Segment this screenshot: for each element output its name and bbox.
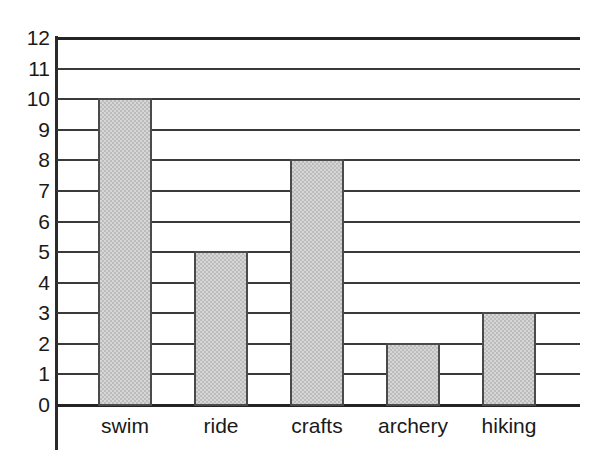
bar-ride xyxy=(194,251,248,406)
bar-archery xyxy=(386,343,440,406)
x-label-hiking: hiking xyxy=(449,415,569,436)
y-tick-label-10: 10 xyxy=(8,88,50,109)
y-tick-label-5: 5 xyxy=(8,241,50,262)
y-tick-label-6: 6 xyxy=(8,211,50,232)
y-tick-label-8: 8 xyxy=(8,149,50,170)
y-tick-label-11: 11 xyxy=(8,58,50,79)
y-tick-label-7: 7 xyxy=(8,180,50,201)
y-axis-tick-labels: 0123456789101112 xyxy=(8,0,50,475)
y-tick-label-12: 12 xyxy=(8,27,50,48)
plot-area xyxy=(57,38,580,405)
gridline-11 xyxy=(57,68,580,70)
y-tick-label-3: 3 xyxy=(8,302,50,323)
bar-hiking xyxy=(482,312,536,406)
y-tick-label-0: 0 xyxy=(8,394,50,415)
bar-swim xyxy=(98,98,152,406)
y-tick-label-4: 4 xyxy=(8,272,50,293)
y-tick-label-9: 9 xyxy=(8,119,50,140)
y-tick-label-1: 1 xyxy=(8,363,50,384)
bar-crafts xyxy=(290,159,344,406)
y-tick-label-2: 2 xyxy=(8,333,50,354)
gridline-12 xyxy=(57,37,580,40)
bar-chart: 0123456789101112 swimridecraftsarcheryhi… xyxy=(0,0,609,475)
